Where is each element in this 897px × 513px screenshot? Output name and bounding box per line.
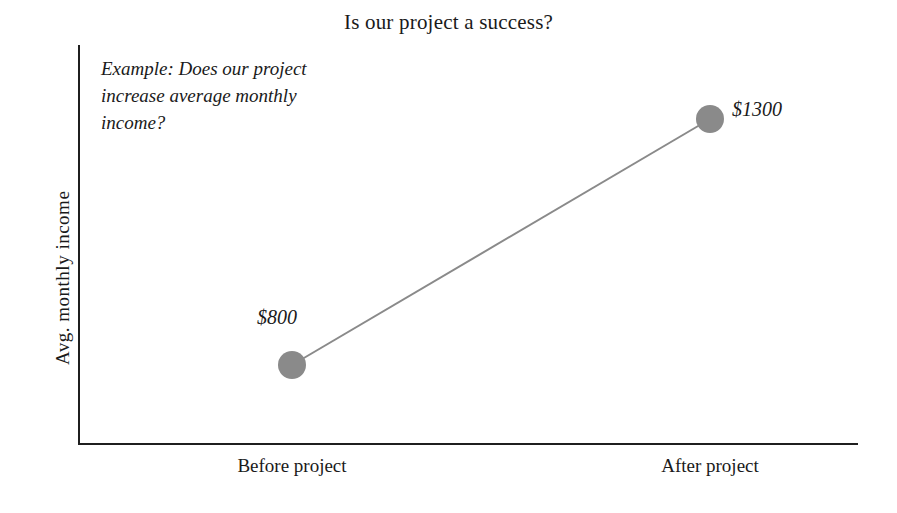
annotation-note-line-3: income? — [101, 109, 391, 136]
y-axis-label: Avg. monthly income — [52, 105, 74, 365]
x-axis-line — [78, 443, 858, 445]
chart-title: Is our project a success? — [0, 10, 897, 35]
chart-canvas: Is our project a success? Avg. monthly i… — [0, 0, 897, 513]
annotation-note-line-1: Example: Does our project — [101, 55, 391, 82]
data-label-after: $1300 — [732, 98, 782, 121]
x-axis-tick-label-after: After project — [610, 455, 810, 477]
data-point-marker-before[interactable] — [278, 351, 306, 379]
y-axis-line — [78, 45, 80, 445]
annotation-note-line-2: increase average monthly — [101, 82, 391, 109]
data-point-marker-after[interactable] — [696, 105, 724, 133]
annotation-note: Example: Does our project increase avera… — [101, 55, 391, 136]
data-label-before: $800 — [257, 306, 297, 329]
series-connector-line — [292, 119, 710, 365]
x-axis-tick-label-before: Before project — [192, 455, 392, 477]
